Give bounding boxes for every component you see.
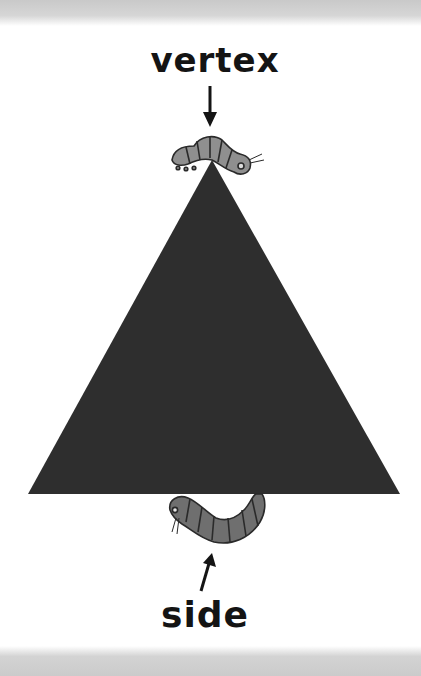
caterpillar-top-icon [172,136,264,174]
side-arrow-icon [201,553,216,591]
triangle-shape [28,160,400,494]
vertex-arrow-icon [203,86,217,127]
triangle-diagram [0,0,421,676]
caterpillar-bottom-icon [170,494,265,543]
